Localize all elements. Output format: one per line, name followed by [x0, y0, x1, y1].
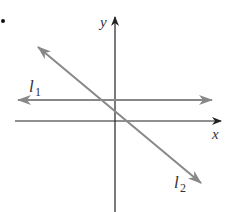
x-axis-label: x — [211, 126, 219, 142]
line-l2-subscript: 2 — [180, 181, 186, 195]
line-l2 — [38, 47, 201, 183]
y-axis-label: y — [98, 14, 107, 30]
coordinate-diagram: y x l 1 l 2 — [0, 0, 237, 212]
line-l1-label: l — [29, 77, 34, 96]
line-l2-label: l — [174, 173, 179, 192]
line-l1-subscript: 1 — [35, 85, 41, 99]
bullet-dot — [1, 19, 5, 23]
